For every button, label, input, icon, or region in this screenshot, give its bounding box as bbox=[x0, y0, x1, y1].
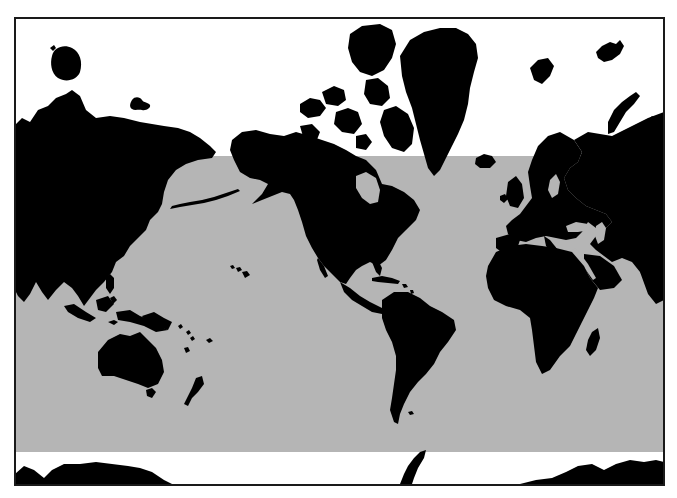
world-map bbox=[0, 0, 677, 498]
